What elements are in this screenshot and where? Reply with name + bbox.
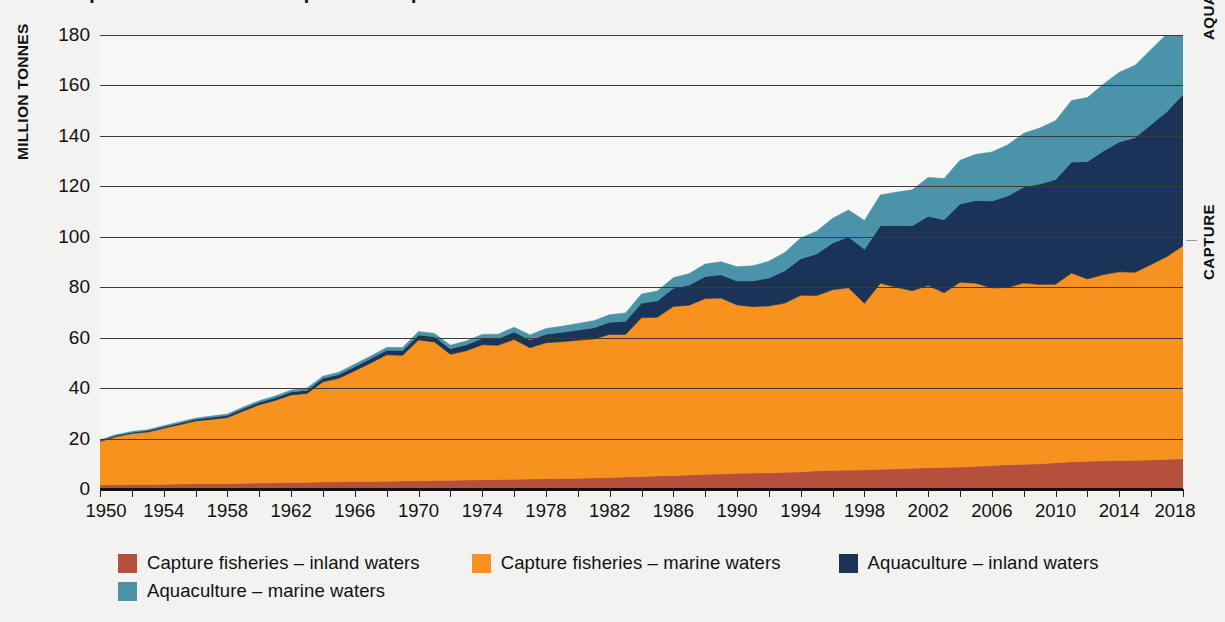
gridline — [100, 237, 1183, 238]
y-tick-label: 140 — [58, 125, 90, 147]
x-tick-label: 2010 — [1035, 500, 1076, 522]
gridline — [100, 35, 1183, 36]
x-tick-mark — [291, 489, 292, 497]
x-tick-label: 2006 — [971, 500, 1012, 522]
x-tick-mark — [960, 489, 961, 497]
x-tick-mark — [514, 489, 515, 497]
y-tick-label: 180 — [58, 24, 90, 46]
x-tick-mark — [642, 489, 643, 497]
legend-swatch-icon — [839, 554, 858, 573]
legend-item[interactable]: Capture fisheries – inland waters — [118, 552, 420, 574]
x-tick-mark — [546, 489, 547, 497]
x-tick-mark — [705, 489, 706, 497]
gridline — [100, 85, 1183, 86]
x-tick-mark — [100, 489, 101, 497]
legend-item[interactable]: Aquaculture – inland waters — [839, 552, 1099, 574]
x-tick-mark — [482, 489, 483, 497]
gridline — [100, 287, 1183, 288]
x-tick-label: 1978 — [525, 500, 566, 522]
legend-item[interactable]: Aquaculture – marine waters — [118, 580, 385, 602]
x-tick-mark — [992, 489, 993, 497]
gridline — [100, 338, 1183, 339]
x-tick-mark — [896, 489, 897, 497]
x-tick-mark — [1024, 489, 1025, 497]
gridline — [100, 439, 1183, 440]
x-tick-label: 2018 — [1154, 500, 1195, 522]
x-tick-label: 1974 — [462, 500, 503, 522]
x-tick-label: 1970 — [398, 500, 439, 522]
x-tick-label: 2002 — [908, 500, 949, 522]
x-tick-mark — [737, 489, 738, 497]
plot-area — [100, 35, 1183, 489]
x-tick-mark — [1056, 489, 1057, 497]
x-tick-mark — [355, 489, 356, 497]
x-tick-mark — [1183, 489, 1184, 497]
x-tick-mark — [196, 489, 197, 497]
x-tick-mark — [1087, 489, 1088, 497]
x-tick-mark — [132, 489, 133, 497]
x-tick-mark — [578, 489, 579, 497]
x-tick-label: 1950 — [85, 500, 126, 522]
x-tick-mark — [928, 489, 929, 497]
x-tick-mark — [801, 489, 802, 497]
legend: Capture fisheries – inland watersCapture… — [118, 549, 1178, 605]
y-tick-label: 0 — [79, 478, 90, 500]
x-tick-label: 1994 — [780, 500, 821, 522]
x-tick-label: 1962 — [271, 500, 312, 522]
x-tick-label: 1966 — [334, 500, 375, 522]
legend-item[interactable]: Capture fisheries – marine waters — [472, 552, 781, 574]
gridlines — [100, 35, 1183, 489]
side-label-capture: CAPTURE — [1200, 204, 1217, 280]
side-label-divider — [1186, 240, 1197, 241]
page-title: World capture fisheries and aquaculture … — [0, 0, 1225, 6]
legend-label: Aquaculture – marine waters — [147, 580, 385, 602]
legend-swatch-icon — [472, 554, 491, 573]
y-axis-title: MILLION TONNES — [14, 23, 32, 160]
x-tick-mark — [1119, 489, 1120, 497]
x-tick-mark — [450, 489, 451, 497]
x-tick-mark — [833, 489, 834, 497]
x-tick-mark — [864, 489, 865, 497]
x-tick-mark — [259, 489, 260, 497]
x-tick-mark — [164, 489, 165, 497]
x-tick-label: 1954 — [143, 500, 184, 522]
x-tick-mark — [610, 489, 611, 497]
legend-row: Aquaculture – marine waters — [118, 577, 1178, 605]
gridline — [100, 388, 1183, 389]
y-tick-label: 100 — [58, 226, 90, 248]
x-tick-mark — [323, 489, 324, 497]
y-tick-label: 20 — [69, 428, 90, 450]
legend-swatch-icon — [118, 554, 137, 573]
side-label-aquaculture: AQUACULTURE — [1200, 0, 1217, 40]
y-tick-label: 120 — [58, 175, 90, 197]
legend-row: Capture fisheries – inland watersCapture… — [118, 549, 1178, 577]
legend-swatch-icon — [118, 582, 137, 601]
gridline — [100, 186, 1183, 187]
x-tick-mark — [227, 489, 228, 497]
x-tick-label: 1958 — [207, 500, 248, 522]
y-tick-label: 160 — [58, 74, 90, 96]
legend-label: Capture fisheries – marine waters — [501, 552, 781, 574]
x-tick-mark — [387, 489, 388, 497]
x-tick-mark — [419, 489, 420, 497]
legend-label: Aquaculture – inland waters — [868, 552, 1099, 574]
x-tick-label: 1982 — [589, 500, 630, 522]
gridline — [100, 136, 1183, 137]
chart-page: World capture fisheries and aquaculture … — [0, 0, 1225, 622]
x-tick-label: 2014 — [1099, 500, 1140, 522]
legend-label: Capture fisheries – inland waters — [147, 552, 420, 574]
x-tick-label: 1986 — [653, 500, 694, 522]
y-tick-label: 80 — [69, 276, 90, 298]
x-tick-mark — [1151, 489, 1152, 497]
x-tick-mark — [673, 489, 674, 497]
x-tick-label: 1998 — [844, 500, 885, 522]
x-tick-label: 1990 — [716, 500, 757, 522]
y-tick-label: 40 — [69, 377, 90, 399]
x-tick-mark — [769, 489, 770, 497]
y-tick-label: 60 — [69, 327, 90, 349]
